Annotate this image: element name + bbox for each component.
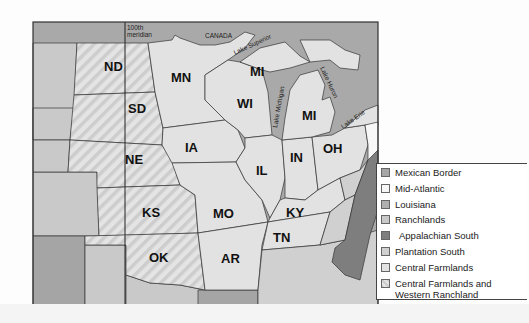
- region-wyoming-north: [33, 108, 74, 140]
- legend-item-ranchlands: Ranchlands: [377, 214, 527, 230]
- legend-label: Louisiana: [395, 199, 436, 210]
- legend-label: Ranchlands: [395, 214, 445, 225]
- legend-item-plantation-south: Plantation South: [377, 246, 527, 262]
- state-label-tn: TN: [273, 230, 290, 245]
- state-sd: [70, 92, 163, 145]
- state-label-sd: SD: [128, 101, 146, 116]
- swatch-appalachian-south: [381, 231, 390, 240]
- region-texas-panhandle: [85, 245, 126, 305]
- state-label-in: IN: [290, 150, 303, 165]
- legend-label: Mexican Border: [395, 167, 462, 178]
- state-label-wi: WI: [237, 96, 253, 111]
- bottom-margin: [0, 304, 529, 323]
- meridian-label-1: 100th: [127, 24, 144, 31]
- region-new-mexico: [33, 236, 85, 305]
- state-label-ks: KS: [142, 205, 160, 220]
- canada-label: CANADA: [205, 32, 233, 39]
- state-label-mn: MN: [171, 70, 191, 85]
- region-louisiana-north: [198, 290, 258, 305]
- legend-item-central-farmlands: Central Farmlands: [377, 262, 527, 278]
- legend-label: Mid-Atlantic: [395, 183, 445, 194]
- state-label-mi: MI: [302, 108, 316, 123]
- swatch-plantation-south: [381, 247, 390, 256]
- swatch-mexican-border: [381, 168, 390, 177]
- swatch-louisiana: [381, 200, 390, 209]
- legend-item-louisiana: Louisiana: [377, 199, 527, 215]
- legend-item-central-farmlands-western-ranchland: Central Farmlands and Western Ranchland: [377, 278, 527, 300]
- region-colorado: [33, 172, 99, 236]
- legend-label: Plantation South: [395, 246, 465, 257]
- region-wyoming: [33, 140, 70, 172]
- state-label-ar: AR: [221, 251, 240, 266]
- swatch-ranchlands: [381, 215, 390, 224]
- legend-label: Central Farmlands and Western Ranchland: [395, 278, 515, 300]
- state-label-nd: ND: [104, 59, 123, 74]
- swatch-mid-atlantic: [381, 184, 390, 193]
- swatch-central-farmlands: [381, 263, 390, 272]
- map-legend: Mexican Border Mid-Atlantic Louisiana Ra…: [376, 163, 527, 300]
- state-label-il: IL: [256, 163, 268, 178]
- state-ia: [162, 120, 245, 163]
- meridian-label-2: meridian: [127, 31, 152, 38]
- state-in: [282, 137, 318, 200]
- state-label-mo: MO: [213, 206, 234, 221]
- state-label-ky: KY: [286, 205, 304, 220]
- swatch-central-farmlands-western-ranchland: [381, 279, 390, 288]
- state-label-ia: IA: [185, 140, 199, 155]
- legend-item-mexican-border: Mexican Border: [377, 167, 527, 183]
- state-label-ok: OK: [149, 250, 169, 265]
- state-label-mi-upper: MI: [250, 64, 264, 79]
- legend-item-mid-atlantic: Mid-Atlantic: [377, 183, 527, 199]
- legend-label: Central Farmlands: [395, 262, 473, 273]
- legend-item-appalachian-south: Appalachian South: [377, 230, 527, 246]
- state-label-oh: OH: [323, 141, 343, 156]
- legend-label: Appalachian South: [395, 230, 479, 241]
- state-label-ne: NE: [125, 152, 143, 167]
